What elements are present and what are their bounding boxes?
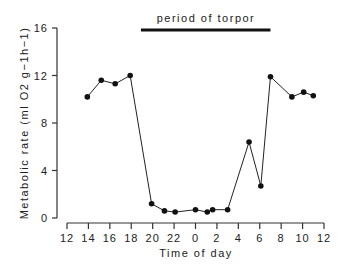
data-point [268, 74, 274, 80]
data-point [149, 201, 155, 207]
y-axis: 0481216 [34, 22, 57, 224]
x-tick-label: 2 [213, 232, 220, 244]
data-point [204, 209, 210, 215]
y-tick-label: 4 [41, 165, 48, 177]
y-tick-label: 12 [34, 70, 48, 82]
x-tick-label: 0 [192, 232, 199, 244]
data-point [310, 93, 316, 99]
data-point [193, 207, 199, 213]
x-tick-label: 8 [278, 232, 285, 244]
data-point [127, 73, 133, 79]
x-axis: 121416182022024681012 [60, 223, 331, 244]
x-tick-label: 22 [167, 232, 181, 244]
x-axis-title: Time of day [159, 247, 233, 259]
x-tick-label: 16 [103, 232, 117, 244]
data-point [301, 89, 307, 95]
data-point [85, 94, 91, 100]
annotation-label: period of torpor [157, 12, 256, 24]
y-tick-label: 0 [41, 212, 48, 224]
data-line [87, 76, 313, 213]
y-axis-title: Metabolic rate (ml O2 g−1h−1) [18, 27, 30, 220]
data-point [246, 139, 252, 145]
y-tick-label: 16 [34, 22, 48, 34]
x-tick-label: 14 [81, 232, 95, 244]
x-tick-label: 18 [124, 232, 138, 244]
x-tick-label: 10 [295, 232, 309, 244]
metabolic-rate-chart: 0481216 121416182022024681012 period of … [0, 0, 347, 267]
x-tick-label: 12 [317, 232, 331, 244]
y-tick-label: 8 [41, 117, 48, 129]
data-point [258, 183, 264, 189]
data-point [210, 207, 216, 213]
data-point [172, 209, 178, 215]
x-tick-label: 6 [256, 232, 263, 244]
data-point [162, 208, 168, 214]
data-points [85, 73, 317, 215]
x-tick-label: 12 [60, 232, 74, 244]
x-tick-label: 20 [146, 232, 160, 244]
data-point [98, 77, 104, 83]
data-point [289, 94, 295, 100]
x-tick-label: 4 [235, 232, 242, 244]
data-point [112, 81, 118, 87]
data-point [225, 207, 231, 213]
